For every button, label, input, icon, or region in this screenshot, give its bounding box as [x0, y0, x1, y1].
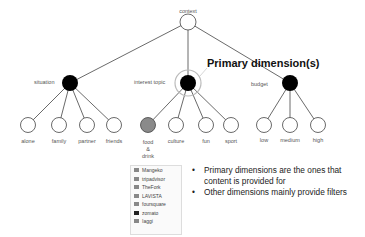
- logo-lavista: LAVISTA: [131, 192, 181, 201]
- node-budget: [282, 75, 298, 91]
- mangeko-icon: [134, 168, 139, 172]
- callout-primary-dimensions: Primary dimension(s): [207, 57, 319, 70]
- logo-tripadvisor: tripadvisor: [131, 175, 181, 184]
- node-interest-topic: [180, 75, 196, 91]
- foursquare-icon: [134, 202, 139, 206]
- node-situation: [62, 75, 78, 91]
- label-budget: budget: [251, 82, 268, 88]
- tripadvisor-icon: [134, 177, 139, 181]
- leaf-low: [257, 118, 272, 133]
- bullet-other-dimensions: Other dimensions mainly provide filters: [190, 187, 365, 198]
- leaf-food-drink: [141, 118, 156, 133]
- root-node-context: [180, 14, 196, 30]
- leaf-alone: [21, 118, 36, 133]
- leaf-family: [52, 118, 67, 133]
- leaf-partner: [80, 118, 95, 133]
- thefork-icon: [134, 185, 139, 189]
- logo-thefork: TheFork: [131, 183, 181, 192]
- leaf-friends: [107, 118, 122, 133]
- label-low: low: [260, 138, 268, 144]
- label-context: context: [179, 9, 197, 15]
- label-partner: partner: [78, 139, 95, 145]
- iaggi-icon: [134, 219, 139, 223]
- label-friends: friends: [106, 139, 123, 145]
- leaf-high: [311, 118, 326, 133]
- label-drink: drink: [142, 154, 154, 160]
- context-tree-diagram: [0, 0, 365, 237]
- label-food: food: [143, 140, 154, 146]
- leaf-nodes: [21, 118, 326, 133]
- leaf-fun: [199, 118, 214, 133]
- label-family: family: [52, 139, 66, 145]
- label-high: high: [313, 138, 323, 144]
- content-provider-logos: Mangeko tripadvisor TheFork LAVISTA four…: [130, 165, 182, 235]
- logo-mangeko: Mangeko: [131, 166, 181, 175]
- edges: [28, 22, 318, 125]
- label-culture: culture: [168, 139, 185, 145]
- logo-iaggi: Iaggi: [131, 217, 181, 226]
- logo-zomato: zomato: [131, 209, 181, 218]
- leaf-sport: [224, 118, 239, 133]
- leaf-medium: [283, 118, 298, 133]
- label-medium: medium: [280, 138, 300, 144]
- zomato-icon: [134, 211, 139, 215]
- label-interest-topic: interest topic: [134, 80, 165, 86]
- label-fun: fun: [202, 139, 210, 145]
- bullet-primary-dimensions: Primary dimensions are the ones that con…: [190, 165, 365, 187]
- explanation-bullets: Primary dimensions are the ones that con…: [190, 165, 365, 198]
- lavista-icon: [134, 194, 139, 198]
- label-sport: sport: [225, 139, 237, 145]
- logo-foursquare: foursquare: [131, 200, 181, 209]
- label-situation: situation: [34, 80, 55, 86]
- leaf-culture: [169, 118, 184, 133]
- label-ampersand: &: [146, 147, 150, 153]
- label-alone: alone: [21, 139, 34, 145]
